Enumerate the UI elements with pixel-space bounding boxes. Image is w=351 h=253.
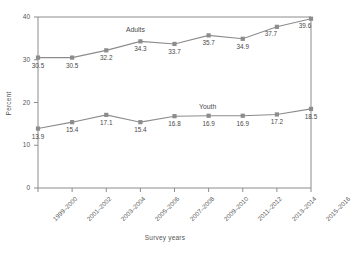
y-tick-label: 40 (12, 13, 30, 20)
data-point-label: 16.8 (162, 120, 188, 127)
data-point-label: 18.5 (298, 113, 324, 120)
data-point-label: 17.1 (93, 119, 119, 126)
y-tick-label: 0 (12, 184, 30, 191)
data-point-label: 30.5 (25, 62, 51, 69)
data-point-marker (309, 107, 313, 111)
data-point-marker (138, 39, 142, 43)
data-point-label: 17.2 (264, 118, 290, 125)
data-point-label: 35.7 (196, 39, 222, 46)
data-point-label: 15.4 (59, 126, 85, 133)
data-point-label: 33.7 (162, 48, 188, 55)
data-point-label: 37.7 (258, 30, 284, 37)
data-point-marker (241, 114, 245, 118)
data-point-label: 34.3 (127, 45, 153, 52)
data-point-marker (207, 114, 211, 118)
data-point-marker (36, 126, 40, 130)
data-point-label: 13.9 (25, 133, 51, 140)
x-axis-ticks (38, 188, 311, 192)
data-point-label: 16.9 (196, 120, 222, 127)
data-point-marker (138, 120, 142, 124)
y-tick-label: 10 (12, 141, 30, 148)
data-point-label: 32.2 (93, 54, 119, 61)
data-point-marker (241, 37, 245, 41)
data-point-marker (207, 33, 211, 37)
data-point-marker (309, 17, 313, 21)
data-point-marker (275, 112, 279, 116)
data-point-marker (104, 48, 108, 52)
data-point-label: 39.6 (292, 22, 318, 29)
data-point-marker (275, 25, 279, 29)
series-annotation-youth: Youth (191, 103, 225, 110)
data-point-marker (70, 120, 74, 124)
data-point-marker (172, 114, 176, 118)
data-point-label: 15.4 (127, 126, 153, 133)
data-point-marker (104, 113, 108, 117)
data-point-marker (172, 42, 176, 46)
data-point-label: 34.9 (230, 43, 256, 50)
data-point-marker (70, 56, 74, 60)
data-point-label: 16.9 (230, 120, 256, 127)
y-tick-label: 20 (12, 99, 30, 106)
y-axis-title: Percent (5, 82, 12, 126)
data-point-label: 30.5 (59, 62, 85, 69)
series-annotation-adults: Adults (118, 26, 152, 33)
x-axis-title: Survey years (110, 234, 220, 241)
data-point-marker (36, 56, 40, 60)
y-axis-ticks (34, 17, 38, 188)
